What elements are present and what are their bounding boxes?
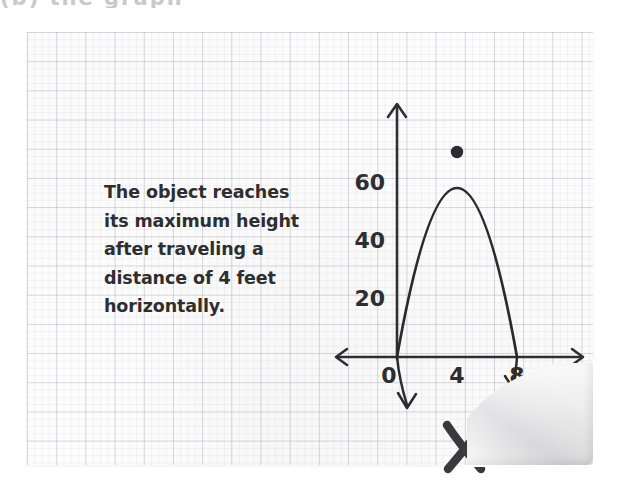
screenshot-canvas: (b) the graph The object reaches its max… — [0, 0, 618, 493]
y-tick-label-40: 40 — [354, 228, 385, 253]
top-cutoff-fragment: (b) the graph — [0, 0, 184, 8]
parabola-curve — [397, 188, 517, 357]
y-tick-label-20: 20 — [354, 286, 385, 311]
statement-text: The object reaches its maximum height af… — [104, 178, 340, 321]
x-tick-label-0: 0 — [381, 363, 396, 388]
vertex-point — [451, 146, 463, 158]
grid-paper-sheet: The object reaches its maximum height af… — [27, 32, 593, 465]
x-tick-label-4: 4 — [449, 363, 464, 388]
parabola-left-tail-arrowhead — [398, 393, 416, 408]
y-tick-label-60: 60 — [354, 170, 385, 195]
top-cutoff-text: (b) the graph — [0, 0, 618, 8]
